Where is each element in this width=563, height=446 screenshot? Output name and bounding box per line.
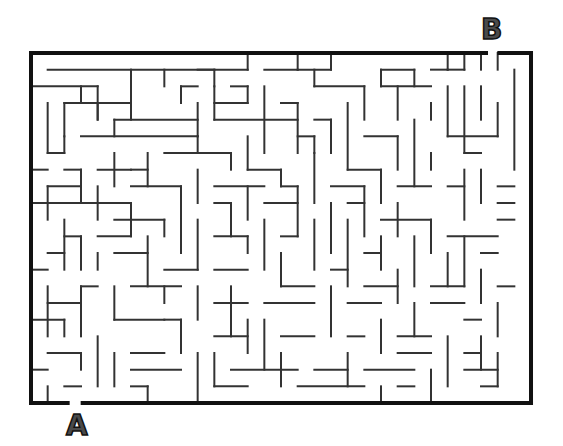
maze-walls [31,53,514,403]
end-label-b: B [481,16,502,44]
maze-border [31,53,531,403]
start-label-a: A [66,412,88,440]
maze-grid [0,0,563,446]
maze-puzzle: B A [0,0,563,446]
